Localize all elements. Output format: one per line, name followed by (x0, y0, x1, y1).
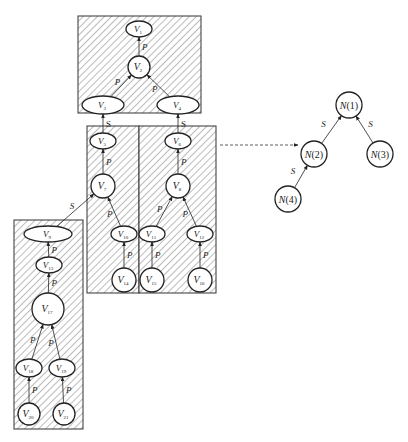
node-v16: V16 (188, 268, 212, 292)
node-v5: V5 (90, 133, 116, 149)
tree-node-n2: N(2) (301, 141, 327, 167)
node-shape (188, 268, 212, 292)
tree-edge-label: S (368, 119, 373, 129)
edge-label-p: P (51, 278, 58, 288)
tree-edge-n4-n2 (295, 165, 308, 187)
node-shape (16, 359, 42, 377)
node-shape (112, 268, 136, 292)
edge-label-s: S (106, 119, 111, 129)
tree-node-label: N(1) (339, 100, 358, 112)
node-v18: V18 (16, 359, 42, 377)
node-v20: V20 (18, 403, 40, 425)
tree-node-n4: N(4) (275, 186, 301, 212)
node-shape (49, 359, 75, 377)
node-v13: V13 (36, 257, 62, 273)
edge-label-p: P (181, 209, 188, 219)
node-v21: V21 (53, 403, 75, 425)
edge-label-s: S (181, 119, 186, 129)
node-v3: V3 (82, 96, 124, 114)
node-v6: V6 (165, 133, 191, 149)
node-v7: V7 (91, 174, 115, 198)
edge-label-s: S (70, 201, 75, 211)
tree-edge-label: S (321, 119, 326, 129)
edge-label-p: P (51, 245, 58, 255)
node-v10: V10 (111, 226, 137, 242)
node-shape (18, 403, 40, 425)
tree-node-label: N(4) (278, 194, 297, 206)
node-v1: V1 (126, 21, 152, 37)
tree-node-label: N(2) (304, 149, 323, 161)
edge-label-p: P (65, 385, 72, 395)
tree-node-n1: N(1) (336, 92, 362, 118)
edge-label-p: P (151, 84, 158, 94)
edge-label-p: P (202, 250, 209, 260)
edge-label-p: P (31, 385, 38, 395)
node-v8: V8 (166, 174, 190, 198)
node-shape (53, 403, 75, 425)
node-v17: V17 (32, 293, 64, 325)
node-v9: V9 (24, 226, 72, 242)
edge-label-p: P (180, 157, 187, 167)
edge-label-p: P (126, 250, 133, 260)
node-v11: V11 (139, 226, 165, 242)
node-v12: V12 (187, 226, 213, 242)
tree-node-label: N(3) (370, 149, 389, 161)
node-v4: V4 (157, 96, 199, 114)
group-tree: SSSN(1)N(2)N(3)N(4) (220, 92, 393, 212)
edge-label-p: P (47, 338, 54, 348)
edge-label-p: P (29, 335, 36, 345)
node-v2: V2 (128, 56, 150, 78)
edge-label-p: P (154, 250, 161, 260)
node-v14: V14 (112, 268, 136, 292)
node-shape (140, 268, 164, 292)
edge-label-p: P (156, 204, 163, 214)
node-v15: V15 (140, 268, 164, 292)
tree-node-n3: N(3) (367, 141, 393, 167)
node-v19: V19 (49, 359, 75, 377)
edge-label-p: P (106, 209, 113, 219)
edge-label-p: P (105, 157, 112, 167)
tree-edge-label: S (291, 166, 296, 176)
edge-label-p: P (141, 42, 148, 52)
edge-label-p: P (114, 77, 121, 87)
diagram-canvas: V1V2V3V4V5V6V7V8V9V10V11V12V13V14V15V16V… (0, 0, 408, 442)
node-shape (32, 293, 64, 325)
